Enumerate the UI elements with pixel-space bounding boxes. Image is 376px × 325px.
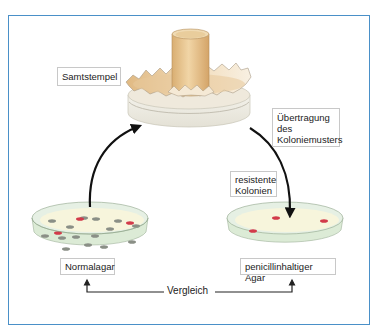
- label-penicillin-agar: penicillinhaltiger Agar: [240, 258, 336, 275]
- petri-dish-normal-icon: [32, 202, 148, 251]
- label-resistente-kolonien: resistente Kolonien: [230, 171, 277, 197]
- velvet-stamp-icon: [126, 29, 251, 127]
- label-normalagar: Normalagar: [60, 258, 115, 275]
- label-uebertragung: Übertragung des Koloniemusters: [272, 108, 340, 147]
- petri-dish-penicillin-icon: [227, 202, 343, 242]
- label-samtstempel: Samtstempel: [57, 67, 121, 86]
- arrow-up-to-stamp-icon: [90, 127, 137, 207]
- label-vergleich: Vergleich: [164, 285, 211, 296]
